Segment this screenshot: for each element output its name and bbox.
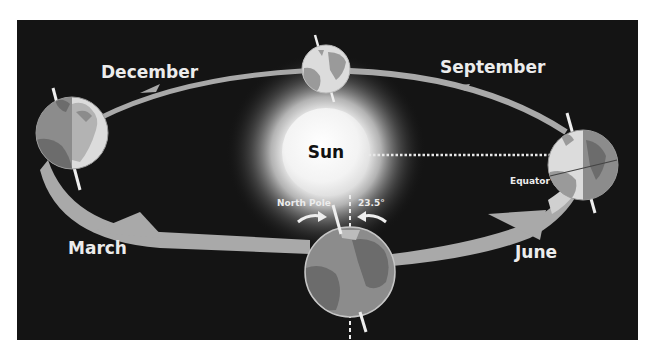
sun-label: Sun bbox=[308, 142, 344, 162]
month-label-june: June bbox=[514, 242, 557, 262]
tilt-angle-label: 23.5° bbox=[358, 198, 385, 208]
orbit-diagram: Sun December September March June North … bbox=[0, 0, 652, 354]
equator-label: Equator bbox=[510, 176, 551, 186]
month-label-september: September bbox=[440, 57, 546, 77]
month-label-december: December bbox=[101, 62, 199, 82]
month-label-march: March bbox=[68, 238, 127, 258]
north-pole-label: North Pole bbox=[277, 198, 331, 208]
